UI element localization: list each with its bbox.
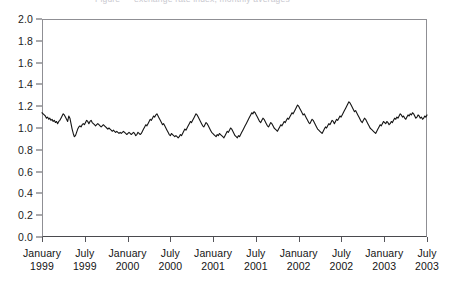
x-axis-tick-label-month: January — [194, 247, 232, 260]
x-axis-tick-label: July2000 — [158, 247, 182, 272]
x-axis-tick-mark — [85, 237, 86, 242]
x-axis-tick-label: January2000 — [109, 247, 147, 272]
x-axis-tick-mark — [128, 237, 129, 242]
x-axis-tick-label-month: July — [244, 247, 268, 260]
x-axis-tick-label-month: January — [365, 247, 403, 260]
x-axis-tick-label-year: 2000 — [109, 260, 147, 273]
x-axis-tick-label-year: 2001 — [244, 260, 268, 273]
clipped-title-text: Figure — exchange rate index, monthly av… — [95, 0, 290, 4]
x-axis-tick-label-year: 2000 — [158, 260, 182, 273]
x-axis-tick-mark — [256, 237, 257, 242]
y-axis-tick-label: 1.4 — [18, 78, 33, 90]
x-axis-tick-label-month: July — [415, 247, 439, 260]
x-axis-tick-label-month: July — [158, 247, 182, 260]
y-axis-tick-label: 1.6 — [18, 57, 33, 69]
chart-figure: Figure — exchange rate index, monthly av… — [0, 0, 449, 284]
y-axis-tick-label: 0.8 — [18, 144, 33, 156]
plot-area — [42, 19, 427, 237]
x-axis: January1999July1999January2000July2000Ja… — [0, 237, 449, 284]
x-axis-tick-label: July1999 — [73, 247, 97, 272]
x-axis-tick-label-month: January — [280, 247, 318, 260]
x-axis-tick-label: July2001 — [244, 247, 268, 272]
x-axis-tick-mark — [299, 237, 300, 242]
y-axis-tick-label: 0.2 — [18, 209, 33, 221]
x-axis-tick-label-month: January — [109, 247, 147, 260]
series-polyline — [42, 102, 427, 138]
x-axis-tick-label: January2002 — [280, 247, 318, 272]
x-axis-tick-label-year: 2002 — [280, 260, 318, 273]
x-axis-tick-label-year: 2001 — [194, 260, 232, 273]
y-axis-tick-label: 1.8 — [18, 35, 33, 47]
x-axis-tick-label-year: 2003 — [365, 260, 403, 273]
x-axis-tick-label-month: July — [73, 247, 97, 260]
x-axis-tick-mark — [341, 237, 342, 242]
x-axis-tick-label-month: July — [330, 247, 354, 260]
x-axis-tick-label: January2003 — [365, 247, 403, 272]
x-axis-tick-label-month: January — [23, 247, 61, 260]
y-axis-tick-label: 1.2 — [18, 100, 33, 112]
x-axis-tick-label-year: 1999 — [73, 260, 97, 273]
x-axis-tick-label-year: 1999 — [23, 260, 61, 273]
y-axis-tick-label: 0.4 — [18, 187, 33, 199]
series-line-rate — [42, 19, 427, 237]
x-axis-tick-label-year: 2002 — [330, 260, 354, 273]
x-axis-tick-label: January1999 — [23, 247, 61, 272]
x-axis-tick-mark — [427, 237, 428, 242]
x-axis-tick-mark — [42, 237, 43, 242]
x-axis-tick-label: January2001 — [194, 247, 232, 272]
x-axis-tick-mark — [213, 237, 214, 242]
x-axis-tick-mark — [170, 237, 171, 242]
x-axis-tick-label: July2002 — [330, 247, 354, 272]
y-axis-tick-label: 0.6 — [18, 166, 33, 178]
y-axis-tick-label: 2.0 — [18, 13, 33, 25]
x-axis-tick-label-year: 2003 — [415, 260, 439, 273]
x-axis-tick-label: July2003 — [415, 247, 439, 272]
y-axis-tick-label: 1.0 — [18, 122, 33, 134]
x-axis-tick-mark — [384, 237, 385, 242]
clipped-title-strip: Figure — exchange rate index, monthly av… — [0, 0, 449, 7]
